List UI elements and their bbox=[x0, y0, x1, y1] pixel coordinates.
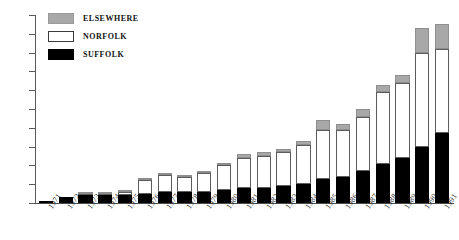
bar-segment-elsewhere bbox=[376, 85, 390, 93]
bar-segment-suffolk bbox=[316, 179, 330, 203]
y-tick-mark bbox=[29, 165, 35, 166]
bar-segment-norfolk bbox=[197, 173, 211, 192]
bar-group bbox=[177, 15, 191, 203]
bar-segment-suffolk bbox=[296, 184, 310, 203]
bar-segment-elsewhere bbox=[395, 75, 409, 83]
legend-label-suffolk: SUFFOLK bbox=[83, 50, 124, 59]
y-tick-mark bbox=[29, 53, 35, 54]
bar-group bbox=[296, 15, 310, 203]
bar-segment-norfolk bbox=[257, 156, 271, 188]
y-tick-mark bbox=[29, 184, 35, 185]
bar-segment-elsewhere bbox=[138, 178, 152, 180]
bar-segment-suffolk bbox=[435, 133, 449, 203]
bar-segment-suffolk bbox=[98, 195, 112, 203]
bar-segment-suffolk bbox=[217, 190, 231, 203]
bar-group bbox=[415, 15, 429, 203]
y-tick-mark bbox=[29, 34, 35, 35]
bar-segment-norfolk bbox=[435, 49, 449, 134]
legend-item-suffolk: SUFFOLK bbox=[48, 47, 168, 62]
y-tick-mark bbox=[29, 128, 35, 129]
bar-group bbox=[356, 15, 370, 203]
y-tick-mark bbox=[29, 71, 35, 72]
bar-group bbox=[316, 15, 330, 203]
bar-segment-suffolk bbox=[415, 147, 429, 203]
bar-segment-suffolk bbox=[138, 194, 152, 203]
bar-segment-norfolk bbox=[276, 152, 290, 186]
bar-group bbox=[197, 15, 211, 203]
bar-segment-elsewhere bbox=[415, 28, 429, 52]
white-swatch-icon bbox=[48, 31, 74, 42]
bar-segment-norfolk bbox=[138, 180, 152, 193]
bar-segment-elsewhere bbox=[78, 192, 92, 194]
y-tick-mark bbox=[29, 147, 35, 148]
bar-segment-suffolk bbox=[59, 197, 73, 203]
bar-segment-norfolk bbox=[158, 175, 172, 192]
bar-group bbox=[395, 15, 409, 203]
legend-item-elsewhere: ELSEWHERE bbox=[48, 11, 168, 26]
bar-segment-suffolk bbox=[78, 195, 92, 203]
bar-segment-norfolk bbox=[237, 158, 251, 188]
black-swatch-icon bbox=[48, 49, 74, 60]
bar-group bbox=[257, 15, 271, 203]
bar-segment-suffolk bbox=[39, 201, 53, 203]
bar-segment-norfolk bbox=[356, 117, 370, 172]
bar-group bbox=[435, 15, 449, 203]
bar-segment-suffolk bbox=[158, 192, 172, 203]
bar-group bbox=[217, 15, 231, 203]
bar-segment-suffolk bbox=[237, 188, 251, 203]
legend-item-norfolk: NORFOLK bbox=[48, 29, 168, 44]
y-tick-mark bbox=[29, 15, 35, 16]
bar-segment-elsewhere bbox=[435, 24, 449, 48]
gray-swatch-icon bbox=[48, 13, 74, 24]
bar-segment-norfolk bbox=[177, 177, 191, 192]
bar-segment-suffolk bbox=[257, 188, 271, 203]
bar-segment-norfolk bbox=[98, 193, 112, 195]
bar-segment-elsewhere bbox=[276, 149, 290, 153]
bar-segment-suffolk bbox=[276, 186, 290, 203]
bar-segment-suffolk bbox=[118, 195, 132, 203]
bar-segment-elsewhere bbox=[296, 141, 310, 145]
bar-group bbox=[276, 15, 290, 203]
bar-segment-suffolk bbox=[356, 171, 370, 203]
y-tick-mark bbox=[29, 90, 35, 91]
bar-segment-norfolk bbox=[296, 145, 310, 184]
bar-segment-elsewhere bbox=[118, 190, 132, 192]
bar-segment-elsewhere bbox=[237, 154, 251, 158]
bar-group bbox=[376, 15, 390, 203]
bar-segment-norfolk bbox=[395, 83, 409, 158]
bar-segment-elsewhere bbox=[98, 192, 112, 194]
bar-group bbox=[237, 15, 251, 203]
bar-segment-norfolk bbox=[415, 53, 429, 147]
y-tick-mark bbox=[29, 109, 35, 110]
bar-segment-elsewhere bbox=[257, 152, 271, 156]
bar-group bbox=[336, 15, 350, 203]
bar-segment-suffolk bbox=[395, 158, 409, 203]
bar-segment-suffolk bbox=[336, 177, 350, 203]
legend-label-norfolk: NORFOLK bbox=[83, 32, 127, 41]
bar-segment-elsewhere bbox=[177, 175, 191, 177]
bar-segment-suffolk bbox=[197, 192, 211, 203]
bar-segment-norfolk bbox=[376, 92, 390, 163]
bar-segment-norfolk bbox=[316, 130, 330, 179]
bar-segment-elsewhere bbox=[336, 124, 350, 130]
bar-segment-suffolk bbox=[376, 164, 390, 203]
bar-segment-elsewhere bbox=[356, 109, 370, 117]
bar-segment-elsewhere bbox=[217, 163, 231, 165]
bar-segment-norfolk bbox=[217, 165, 231, 189]
bar-segment-elsewhere bbox=[197, 171, 211, 173]
bar-segment-suffolk bbox=[177, 192, 191, 203]
chart-legend: ELSEWHERE NORFOLK SUFFOLK bbox=[48, 11, 168, 65]
bar-segment-norfolk bbox=[118, 192, 132, 196]
bar-segment-elsewhere bbox=[158, 173, 172, 175]
bar-segment-elsewhere bbox=[316, 120, 330, 129]
bar-segment-norfolk bbox=[336, 130, 350, 177]
legend-label-elsewhere: ELSEWHERE bbox=[83, 14, 139, 23]
bar-segment-norfolk bbox=[78, 193, 92, 195]
